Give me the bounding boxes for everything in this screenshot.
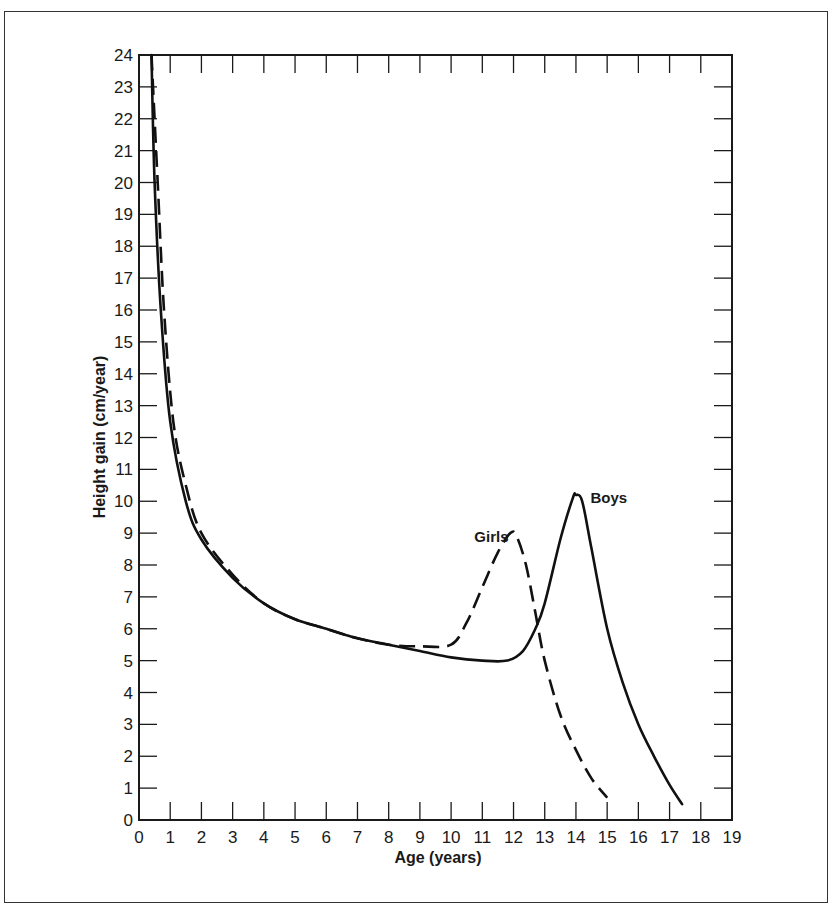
y-tick-label: 5 [124, 652, 133, 671]
x-tick-label: 9 [415, 828, 424, 847]
x-tick-label: 16 [629, 828, 648, 847]
x-tick-label: 15 [598, 828, 617, 847]
y-tick-label: 2 [124, 747, 133, 766]
y-tick-label: 7 [124, 588, 133, 607]
y-tick-label: 14 [114, 365, 133, 384]
y-tick-label: 19 [114, 205, 133, 224]
x-tick-label: 3 [228, 828, 237, 847]
girls-series-label: Girls [474, 528, 508, 545]
x-tick-label: 6 [322, 828, 331, 847]
y-tick-label: 22 [114, 110, 133, 129]
x-tick-label: 14 [566, 828, 585, 847]
boys-curve [152, 55, 683, 804]
y-tick-label: 0 [124, 811, 133, 830]
y-tick-label: 9 [124, 524, 133, 543]
x-tick-label: 5 [290, 828, 299, 847]
y-tick-label: 17 [114, 269, 133, 288]
x-tick-label: 11 [473, 828, 491, 847]
y-tick-label: 20 [114, 174, 133, 193]
y-tick-label: 15 [114, 333, 133, 352]
y-tick-label: 24 [114, 46, 133, 65]
y-tick-label: 11 [115, 460, 133, 479]
x-tick-label: 1 [165, 828, 174, 847]
y-tick-label: 18 [114, 237, 133, 256]
y-tick-label: 4 [124, 684, 133, 703]
y-tick-label: 3 [124, 715, 133, 734]
y-tick-label: 1 [124, 779, 133, 798]
y-tick-label: 10 [114, 492, 133, 511]
y-tick-label: 23 [114, 78, 133, 97]
y-tick-label: 12 [114, 429, 133, 448]
y-tick-label: 6 [124, 620, 133, 639]
x-tick-label: 13 [535, 828, 554, 847]
x-tick-label: 8 [384, 828, 393, 847]
y-axis-title: Height gain (cm/year) [91, 356, 108, 519]
x-tick-label: 10 [442, 828, 461, 847]
y-tick-label: 8 [124, 556, 133, 575]
axis-ticks: 0123456789101112131415161718190123456789… [114, 46, 741, 847]
girls-curve [152, 55, 608, 798]
x-axis-title: Age (years) [394, 849, 481, 866]
y-tick-label: 16 [114, 301, 133, 320]
data-series [152, 55, 683, 804]
x-tick-label: 2 [197, 828, 206, 847]
y-tick-label: 13 [114, 397, 133, 416]
x-tick-label: 18 [691, 828, 710, 847]
x-tick-label: 12 [504, 828, 523, 847]
x-tick-label: 7 [353, 828, 362, 847]
plot-border [139, 55, 732, 820]
x-tick-label: 19 [723, 828, 742, 847]
growth-velocity-chart: 0123456789101112131415161718190123456789… [0, 0, 838, 911]
y-tick-label: 21 [114, 142, 133, 161]
plot-axes [139, 55, 732, 820]
x-tick-label: 4 [259, 828, 268, 847]
boys-series-label: Boys [590, 489, 627, 506]
x-tick-label: 0 [134, 828, 143, 847]
x-tick-label: 17 [660, 828, 679, 847]
